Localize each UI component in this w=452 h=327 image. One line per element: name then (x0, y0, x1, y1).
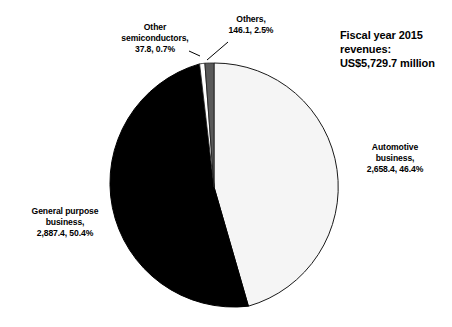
pie-slices (110, 63, 338, 307)
pie-chart-figure: Other semiconductors, 37.8, 0.7% Others,… (0, 0, 452, 327)
slice-label-general-purpose: General purpose business, 2,887.4, 50.4% (2, 206, 128, 240)
slice-label-automotive: Automotive business, 2,658.4, 46.4% (342, 142, 448, 176)
slice-label-other-semiconductors: Other semiconductors, 37.8, 0.7% (96, 22, 214, 56)
chart-title: Fiscal year 2015 revenues: US$5,729.7 mi… (340, 28, 452, 70)
slice-label-others: Others, 146.1, 2.5% (205, 14, 297, 36)
